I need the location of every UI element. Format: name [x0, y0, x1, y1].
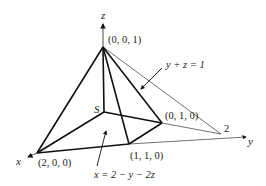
- x-axis-label: x: [15, 155, 21, 167]
- mid-corner-label: (1, 1, 0): [130, 150, 164, 162]
- top-plane-pointer-arrow: [141, 68, 162, 89]
- y-corner-label: (0, 1, 0): [165, 110, 199, 122]
- edge-110-to-010: [129, 123, 162, 144]
- y-axis-upper: [162, 123, 221, 134]
- edge-apex-to-x: [37, 47, 103, 153]
- y-axis-label: y: [247, 135, 253, 147]
- solid-edges: [37, 47, 162, 153]
- y-intercept-label: 2: [224, 123, 229, 134]
- bottom-plane-equation: x = 2 − y − 2z: [93, 169, 155, 180]
- edge-origin-to-010: [104, 112, 162, 123]
- edge-apex-to-110: [103, 47, 129, 144]
- solid-region-diagram: z x y (0, 0, 1) (2, 0, 0) (0, 1, 0) (1, …: [0, 0, 266, 186]
- x-axis: [28, 153, 37, 157]
- top-plane-equation: y + z = 1: [165, 59, 205, 70]
- x-corner-label: (2, 0, 0): [38, 157, 72, 169]
- region-s-label: S: [94, 103, 100, 115]
- apex-vertex-label: (0, 0, 1): [108, 34, 142, 46]
- bottom-plane-pointer-arrow: [97, 131, 106, 166]
- z-axis-label: z: [100, 9, 106, 21]
- edge-apex-to-010: [103, 47, 162, 123]
- y-axis-lower: [129, 137, 246, 144]
- edge-apex-to-origin: [103, 47, 104, 112]
